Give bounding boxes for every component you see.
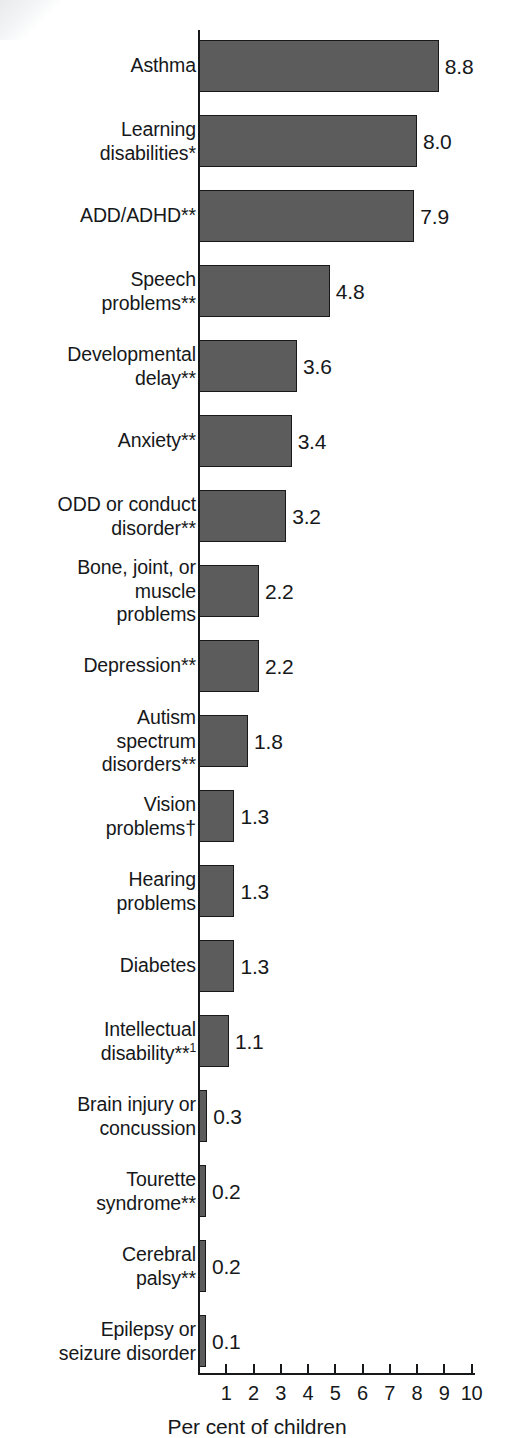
bar: [199, 1165, 206, 1217]
bar: [199, 1315, 206, 1367]
category-label: ODD or conductdisorder**: [0, 493, 196, 540]
x-axis-tick-label: 9: [429, 1383, 459, 1403]
x-axis-tick: [280, 1364, 282, 1373]
x-axis-tick-label: 10: [457, 1383, 487, 1403]
bar-row: Bone, joint, ormuscleproblems2.2: [0, 565, 514, 617]
bar-row: ODD or conductdisorder**3.2: [0, 490, 514, 542]
bar: [199, 565, 259, 617]
x-axis-tick-label: 3: [266, 1383, 296, 1403]
category-label: Bone, joint, ormuscleproblems: [0, 556, 196, 627]
bar-value-label: 3.4: [298, 431, 327, 452]
x-axis-tick-label: 2: [239, 1383, 269, 1403]
x-axis-tick-label: 5: [320, 1383, 350, 1403]
category-label: Cerebralpalsy**: [0, 1243, 196, 1290]
bar: [199, 940, 234, 992]
bar-value-label: 3.6: [303, 356, 332, 377]
bar-value-label: 7.9: [420, 206, 449, 227]
x-axis-tick-label: 7: [375, 1383, 405, 1403]
bar: [199, 190, 414, 242]
x-axis-tick-label: 4: [293, 1383, 323, 1403]
category-label: Autismspectrumdisorders**: [0, 706, 196, 777]
bar-row: Learningdisabilities*8.0: [0, 115, 514, 167]
x-axis-tick: [253, 1364, 255, 1373]
x-axis-tick: [225, 1364, 227, 1373]
bar: [199, 1240, 206, 1292]
category-label: ADD/ADHD**: [0, 204, 196, 228]
bar: [199, 415, 292, 467]
bar-row: Intellectualdisability**11.1: [0, 1015, 514, 1067]
bar-value-label: 4.8: [336, 281, 365, 302]
bar-row: Speechproblems**4.8: [0, 265, 514, 317]
bar-value-label: 0.1: [212, 1331, 241, 1352]
category-label: Depression**: [0, 654, 196, 678]
bar: [199, 790, 234, 842]
bar: [199, 40, 439, 92]
footnote-superscript: 1: [189, 1041, 196, 1055]
x-axis-tick: [389, 1364, 391, 1373]
bar-row: Asthma8.8: [0, 40, 514, 92]
bar-value-label: 2.2: [265, 581, 294, 602]
bar: [199, 640, 259, 692]
bar-row: Hearingproblems1.3: [0, 865, 514, 917]
category-label: Learningdisabilities*: [0, 118, 196, 165]
bar-value-label: 1.3: [240, 956, 269, 977]
x-axis-tick-label: 6: [348, 1383, 378, 1403]
bar-value-label: 3.2: [292, 506, 321, 527]
bar-row: Developmentaldelay**3.6: [0, 340, 514, 392]
bar-row: Diabetes1.3: [0, 940, 514, 992]
bar: [199, 490, 286, 542]
category-label: Speechproblems**: [0, 268, 196, 315]
bar: [199, 1015, 229, 1067]
x-axis-tick-label: 1: [211, 1383, 241, 1403]
bar-value-label: 0.2: [212, 1181, 241, 1202]
x-axis-tick: [443, 1364, 445, 1373]
category-label: Anxiety**: [0, 429, 196, 453]
x-axis-title: Per cent of children: [0, 1415, 514, 1438]
bar-row: ADD/ADHD**7.9: [0, 190, 514, 242]
category-label: Developmentaldelay**: [0, 343, 196, 390]
category-label: Intellectualdisability**1: [0, 1018, 196, 1065]
bar-value-label: 0.2: [212, 1256, 241, 1277]
bar: [199, 1090, 207, 1142]
bar-value-label: 1.3: [240, 881, 269, 902]
category-label: Visionproblems†: [0, 793, 196, 840]
x-axis-tick: [362, 1364, 364, 1373]
bar: [199, 115, 417, 167]
bar-row: Epilepsy orseizure disorder0.1: [0, 1315, 514, 1367]
bar-row: Tourettesyndrome**0.2: [0, 1165, 514, 1217]
category-label: Hearingproblems: [0, 868, 196, 915]
x-axis-tick: [471, 1364, 473, 1373]
bar-value-label: 0.3: [213, 1106, 242, 1127]
category-label: Diabetes: [0, 954, 196, 978]
bar-row: Anxiety**3.4: [0, 415, 514, 467]
x-axis-tick-label: 8: [402, 1383, 432, 1403]
bar-value-label: 8.0: [423, 131, 452, 152]
x-axis-tick: [416, 1364, 418, 1373]
bar-row: Depression**2.2: [0, 640, 514, 692]
bar-row: Brain injury orconcussion0.3: [0, 1090, 514, 1142]
bar-value-label: 1.3: [240, 806, 269, 827]
category-label: Asthma: [0, 54, 196, 78]
bar-row: Visionproblems†1.3: [0, 790, 514, 842]
x-axis-tick: [334, 1364, 336, 1373]
bar-value-label: 2.2: [265, 656, 294, 677]
x-axis-tick: [307, 1364, 309, 1373]
bar: [199, 265, 330, 317]
category-label: Brain injury orconcussion: [0, 1093, 196, 1140]
bar-value-label: 1.1: [235, 1031, 264, 1052]
x-axis-line: [198, 1373, 475, 1375]
bar: [199, 340, 297, 392]
bar-row: Autismspectrumdisorders**1.8: [0, 715, 514, 767]
category-label: Epilepsy orseizure disorder: [0, 1318, 196, 1365]
bar-value-label: 8.8: [445, 56, 474, 77]
category-label: Tourettesyndrome**: [0, 1168, 196, 1215]
bar-row: Cerebralpalsy**0.2: [0, 1240, 514, 1292]
bar: [199, 865, 234, 917]
bar-value-label: 1.8: [254, 731, 283, 752]
bar: [199, 715, 248, 767]
